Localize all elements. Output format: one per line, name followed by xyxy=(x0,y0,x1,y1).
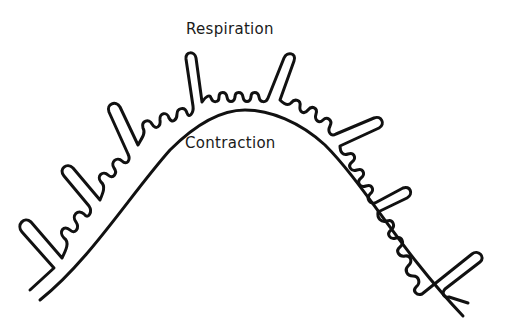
outer-folded-membrane xyxy=(20,53,482,303)
contraction-label: Contraction xyxy=(185,134,276,152)
membrane-diagram xyxy=(0,0,509,335)
respiration-label: Respiration xyxy=(186,20,274,38)
diagram-canvas: Respiration Contraction xyxy=(0,0,509,335)
